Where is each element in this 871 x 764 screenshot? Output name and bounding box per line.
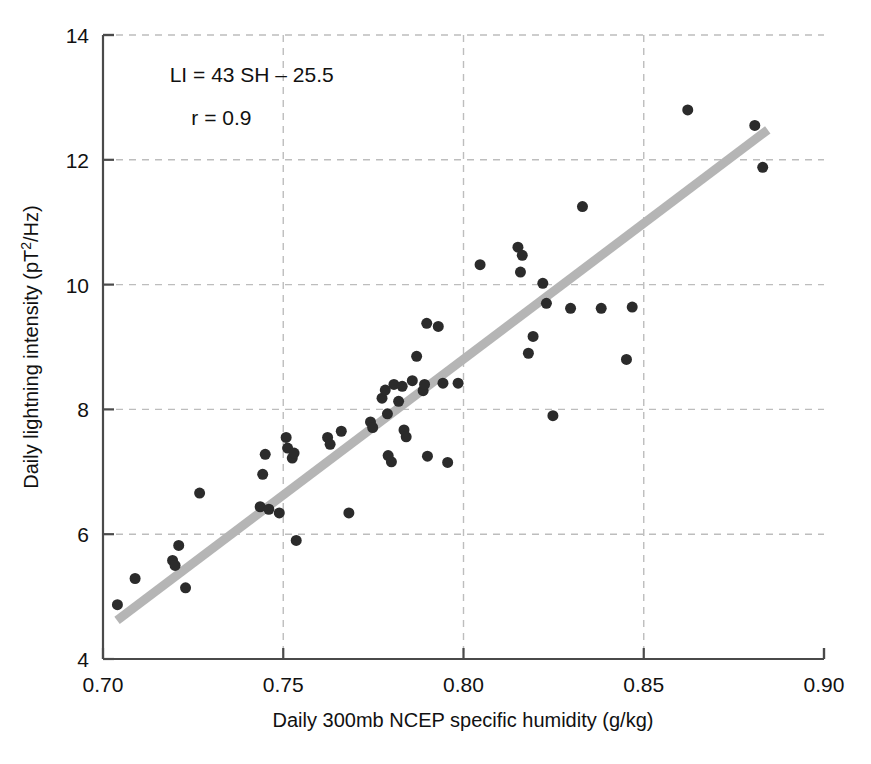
data-point: [411, 351, 422, 362]
data-point: [407, 375, 418, 386]
plot-canvas: 468101214 0.700.750.800.850.90 LI = 43 S…: [0, 0, 871, 764]
y-axis-label-suffix: /Hz): [20, 205, 42, 242]
data-point: [621, 354, 632, 365]
data-point: [397, 381, 408, 392]
chart-annotation: r = 0.9: [191, 106, 251, 129]
y-tick-group: 468101214: [66, 24, 114, 671]
data-point: [528, 331, 539, 342]
data-point: [367, 422, 378, 433]
data-point: [757, 162, 768, 173]
data-point: [627, 302, 638, 313]
data-point: [537, 278, 548, 289]
data-point: [325, 439, 336, 450]
regression-line-group: [117, 130, 768, 620]
y-tick-label: 6: [77, 523, 89, 546]
data-point: [442, 457, 453, 468]
y-axis-label-prefix: Daily lightning intensity (pT: [20, 250, 42, 489]
data-point: [281, 432, 292, 443]
data-point: [112, 599, 123, 610]
y-tick-label: 12: [66, 149, 89, 172]
data-point: [289, 448, 300, 459]
data-point: [274, 507, 285, 518]
data-point: [421, 318, 432, 329]
x-tick-label: 0.80: [443, 673, 484, 696]
data-point: [291, 535, 302, 546]
data-point: [173, 540, 184, 551]
y-tick-label: 14: [66, 24, 90, 47]
regression-line: [117, 130, 768, 620]
data-point: [453, 378, 464, 389]
data-point: [596, 303, 607, 314]
data-point: [180, 582, 191, 593]
annotation-group: LI = 43 SH – 25.5r = 0.9: [170, 63, 334, 130]
data-point: [386, 456, 397, 467]
x-tick-label: 0.75: [263, 673, 304, 696]
y-axis-label: Daily lightning intensity (pT2/Hz): [18, 205, 42, 488]
data-point: [257, 469, 268, 480]
y-tick-label: 10: [66, 274, 89, 297]
data-point: [170, 560, 181, 571]
data-point: [419, 379, 430, 390]
data-point: [541, 298, 552, 309]
x-tick-label: 0.85: [623, 673, 664, 696]
x-axis-label: Daily 300mb NCEP specific humidity (g/kg…: [273, 709, 654, 731]
data-point: [393, 396, 404, 407]
data-point: [547, 410, 558, 421]
data-point: [682, 104, 693, 115]
data-point: [194, 488, 205, 499]
data-point: [382, 408, 393, 419]
chart-annotation: LI = 43 SH – 25.5: [170, 63, 334, 86]
data-point: [336, 426, 347, 437]
data-point: [422, 451, 433, 462]
y-tick-label: 8: [77, 398, 89, 421]
data-point: [263, 504, 274, 515]
y-tick-label: 4: [77, 648, 89, 671]
data-point: [401, 431, 412, 442]
data-point: [515, 267, 526, 278]
data-point: [343, 507, 354, 518]
scatter-plot-figure: 468101214 0.700.750.800.850.90 LI = 43 S…: [0, 0, 871, 764]
data-point: [517, 250, 528, 261]
data-point: [433, 321, 444, 332]
data-point: [437, 378, 448, 389]
data-point: [577, 201, 588, 212]
data-point: [749, 120, 760, 131]
data-point: [260, 449, 271, 460]
x-tick-label: 0.90: [804, 673, 845, 696]
x-tick-label: 0.70: [83, 673, 124, 696]
data-point: [523, 348, 534, 359]
data-point: [565, 303, 576, 314]
data-point: [130, 573, 141, 584]
y-axis-label-superscript: 2: [18, 242, 34, 250]
data-point: [475, 259, 486, 270]
x-tick-group: 0.700.750.800.850.90: [83, 648, 845, 696]
